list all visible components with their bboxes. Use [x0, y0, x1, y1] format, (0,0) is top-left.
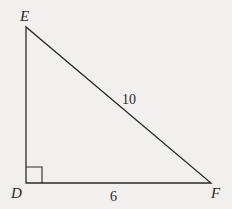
triangle-diagram: E D F 10 6	[0, 0, 232, 209]
vertex-label-e: E	[19, 8, 29, 24]
triangle-def	[26, 27, 211, 183]
side-label-df: 6	[110, 189, 117, 204]
vertex-label-d: D	[10, 185, 22, 201]
right-angle-marker	[26, 167, 42, 183]
side-label-ef: 10	[122, 92, 136, 107]
vertex-label-f: F	[210, 185, 221, 201]
